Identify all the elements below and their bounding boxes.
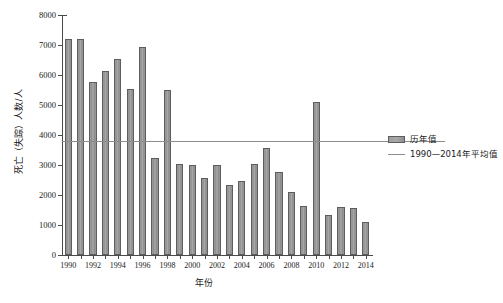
x-tick bbox=[341, 255, 342, 259]
bar bbox=[89, 82, 96, 255]
y-tick bbox=[58, 255, 63, 256]
legend-line-swatch-icon bbox=[388, 151, 405, 158]
legend-bar-swatch-icon bbox=[388, 136, 405, 143]
bar bbox=[300, 206, 307, 255]
x-tick bbox=[205, 255, 206, 259]
legend-label-average: 1990—2014年平均值 bbox=[410, 150, 498, 159]
x-tick bbox=[229, 255, 230, 259]
bar bbox=[102, 71, 109, 255]
bar bbox=[176, 164, 183, 255]
chart-root: 010002000300040005000600070008000 199019… bbox=[0, 0, 503, 303]
bar bbox=[139, 47, 146, 255]
bar bbox=[238, 181, 245, 255]
bar bbox=[226, 185, 233, 255]
legend-label-annual: 历年值 bbox=[410, 135, 437, 144]
bar bbox=[164, 90, 171, 255]
bars-layer bbox=[62, 15, 372, 255]
x-tick bbox=[267, 255, 268, 259]
x-tick bbox=[316, 255, 317, 259]
x-tick bbox=[93, 255, 94, 259]
bar bbox=[127, 89, 134, 255]
legend-item-average: 1990—2014年平均值 bbox=[388, 148, 498, 161]
x-tick bbox=[254, 255, 255, 259]
y-tick-label: 0 bbox=[18, 251, 56, 260]
bar bbox=[77, 39, 84, 255]
bar bbox=[275, 172, 282, 255]
x-tick bbox=[279, 255, 280, 259]
x-tick bbox=[353, 255, 354, 259]
x-tick bbox=[304, 255, 305, 259]
bar bbox=[251, 164, 258, 255]
x-tick bbox=[118, 255, 119, 259]
legend-item-annual: 历年值 bbox=[388, 133, 498, 146]
x-tick bbox=[366, 255, 367, 259]
bar bbox=[213, 165, 220, 255]
bar bbox=[201, 178, 208, 255]
bar bbox=[263, 148, 270, 255]
bar bbox=[189, 165, 196, 255]
bar bbox=[151, 158, 158, 255]
y-tick-label: 7000 bbox=[18, 41, 56, 50]
y-tick-label: 8000 bbox=[18, 11, 56, 20]
bar bbox=[337, 207, 344, 255]
x-tick bbox=[291, 255, 292, 259]
x-axis-title: 年份 bbox=[195, 276, 213, 289]
x-tick bbox=[192, 255, 193, 259]
bar bbox=[350, 208, 357, 255]
x-tick bbox=[180, 255, 181, 259]
x-tick bbox=[81, 255, 82, 259]
x-tick bbox=[143, 255, 144, 259]
bar bbox=[325, 215, 332, 255]
bar bbox=[362, 222, 369, 255]
x-tick-label: 2014 bbox=[351, 261, 381, 270]
bar bbox=[288, 192, 295, 255]
legend: 历年值 1990—2014年平均值 bbox=[388, 133, 498, 163]
y-tick-label: 1000 bbox=[18, 221, 56, 230]
y-axis-title: 死亡（失踪）人数/人 bbox=[12, 62, 25, 202]
x-tick bbox=[155, 255, 156, 259]
x-tick bbox=[130, 255, 131, 259]
bar bbox=[114, 59, 121, 256]
x-tick bbox=[167, 255, 168, 259]
bar bbox=[65, 39, 72, 255]
bar bbox=[313, 102, 320, 255]
x-tick bbox=[68, 255, 69, 259]
x-tick bbox=[329, 255, 330, 259]
x-tick bbox=[105, 255, 106, 259]
x-tick bbox=[242, 255, 243, 259]
x-tick bbox=[217, 255, 218, 259]
